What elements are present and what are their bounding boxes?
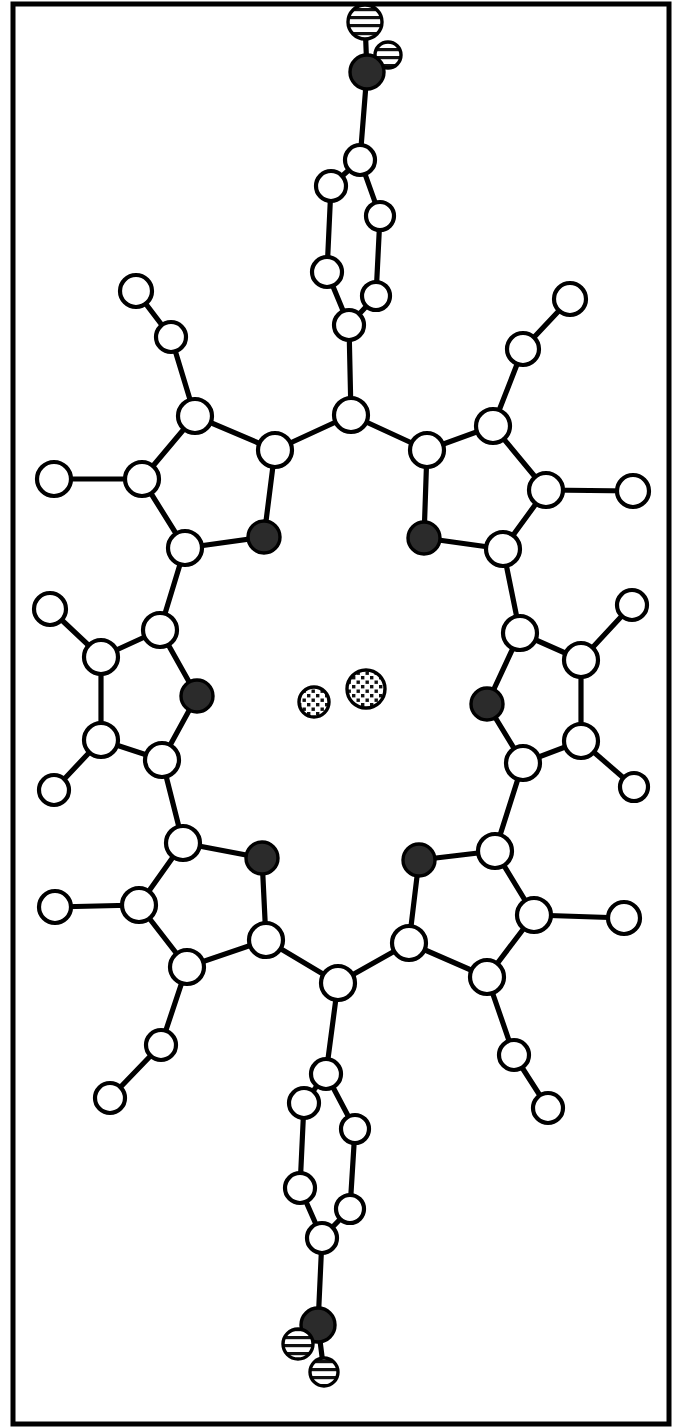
carbon-atom-C53 [336, 1195, 364, 1223]
nitrogen-atom-N3 [408, 522, 440, 554]
carbon-atom-C28 [503, 616, 537, 650]
atom-layer [34, 5, 649, 1386]
nitrogen-atom-N1 [350, 55, 384, 89]
carbon-atom-C5 [362, 282, 390, 310]
carbon-atom-C7 [334, 398, 368, 432]
carbon-atom-C10 [125, 462, 159, 496]
nitrogen-atom-N2 [248, 521, 280, 553]
carbon-atom-C30 [564, 724, 598, 758]
carbon-atom-C34 [166, 826, 200, 860]
nitrogen-atom-N6 [246, 842, 278, 874]
carbon-atom-C49 [311, 1059, 341, 1089]
carbon-atom-C50 [289, 1088, 319, 1118]
carbon-atom-C48 [321, 966, 355, 1000]
carbon-atom-C24 [84, 723, 118, 757]
carbon-atom-C23 [145, 743, 179, 777]
carbon-atom-C52 [285, 1173, 315, 1203]
carbon-atom-C41 [478, 834, 512, 868]
carbon-atom-C43 [470, 960, 504, 994]
carbon-atom-C40 [95, 1083, 125, 1113]
oxygen-atom-O4 [310, 1358, 338, 1386]
carbon-atom-C3 [366, 202, 394, 230]
carbon-atom-C36 [170, 950, 204, 984]
carbon-atom-C1 [345, 145, 375, 175]
carbon-atom-C37 [122, 888, 156, 922]
carbon-atom-C21 [617, 475, 649, 507]
nitrogen-atom-N5 [471, 688, 503, 720]
carbon-atom-C4 [312, 257, 342, 287]
carbon-atom-C18 [476, 409, 510, 443]
carbon-atom-C6 [334, 310, 364, 340]
oxygen-atom-O1 [348, 5, 382, 39]
carbon-atom-C35 [249, 923, 283, 957]
carbon-atom-C33 [620, 773, 648, 801]
carbon-atom-C44 [517, 898, 551, 932]
carbon-atom-C16 [486, 532, 520, 566]
carbon-atom-C14 [37, 462, 71, 496]
metal-or-ion-atom-M1 [299, 687, 329, 717]
carbon-atom-C26 [34, 593, 66, 625]
carbon-atom-C22 [143, 613, 177, 647]
nitrogen-atom-N4 [181, 680, 213, 712]
carbon-atom-C12 [156, 322, 186, 352]
carbon-atom-C2 [316, 171, 346, 201]
carbon-atom-C45 [608, 902, 640, 934]
carbon-atom-C38 [39, 891, 71, 923]
carbon-atom-C27 [39, 775, 69, 805]
carbon-atom-C32 [617, 590, 647, 620]
carbon-atom-C15 [410, 433, 444, 467]
carbon-atom-C51 [341, 1115, 369, 1143]
oxygen-atom-O3 [283, 1329, 313, 1359]
figure-root: Porphyrin macrocycle with nitrophenyl su… [0, 0, 676, 1428]
carbon-atom-C42 [392, 926, 426, 960]
carbon-atom-C25 [84, 640, 118, 674]
carbon-atom-C11 [178, 399, 212, 433]
metal-or-ion-atom-M2 [347, 670, 385, 708]
carbon-atom-C9 [168, 531, 202, 565]
carbon-atom-C17 [529, 473, 563, 507]
carbon-atom-C47 [533, 1093, 563, 1123]
carbon-atom-C29 [506, 746, 540, 780]
carbon-atom-C19 [507, 333, 539, 365]
nitrogen-atom-N7 [403, 844, 435, 876]
carbon-atom-C39 [146, 1030, 176, 1060]
carbon-atom-C31 [564, 643, 598, 677]
carbon-atom-C20 [554, 283, 586, 315]
carbon-atom-C54 [307, 1223, 337, 1253]
carbon-atom-C46 [499, 1040, 529, 1070]
bond-layer [50, 22, 634, 1372]
carbon-atom-C8 [258, 433, 292, 467]
carbon-atom-C13 [120, 275, 152, 307]
molecular-structure-diagram [0, 0, 676, 1428]
